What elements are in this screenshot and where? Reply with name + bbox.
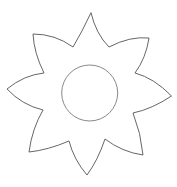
flower-figure (0, 0, 177, 187)
background (0, 0, 177, 187)
flower-svg (0, 0, 177, 187)
